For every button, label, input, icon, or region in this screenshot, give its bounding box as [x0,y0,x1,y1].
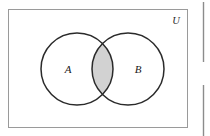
venn-diagram-canvas: A B U [0,0,210,136]
venn-diagram-figure: A B U [0,0,210,136]
set-b-label: B [135,63,142,75]
set-a-label: A [64,63,72,75]
